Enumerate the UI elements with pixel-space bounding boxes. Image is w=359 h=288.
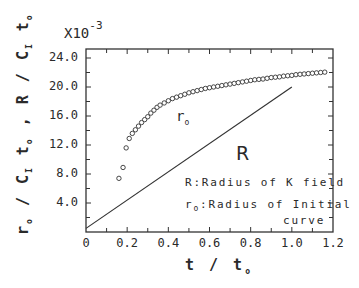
data-point-r0 xyxy=(162,101,166,105)
data-point-r0 xyxy=(220,83,224,87)
data-point-r0 xyxy=(203,86,207,90)
x-tick-label: 0.6 xyxy=(195,236,225,250)
x-tick-label: 0.2 xyxy=(112,236,142,250)
legend-entry-r0: ro:Radius of Initial xyxy=(185,198,352,213)
annotation-R: R xyxy=(236,142,249,164)
data-point-r0 xyxy=(158,103,162,107)
data-point-r0 xyxy=(224,83,228,87)
data-point-r0 xyxy=(244,79,248,83)
data-point-r0 xyxy=(211,85,215,89)
x-tick-label: 0.8 xyxy=(236,236,266,250)
y-axis-label: ro / CI to , R / CI to xyxy=(14,13,34,235)
y-tick-label: 8.0 xyxy=(34,166,78,180)
data-point-r0 xyxy=(166,99,170,103)
x-tick-label: 1.0 xyxy=(277,236,307,250)
data-point-r0 xyxy=(240,80,244,84)
data-point-r0 xyxy=(121,165,125,169)
data-point-r0 xyxy=(236,80,240,84)
data-point-r0 xyxy=(232,81,236,85)
y-tick-label: 4.0 xyxy=(34,195,78,209)
y-tick-label: 12.0 xyxy=(34,137,78,151)
data-point-r0 xyxy=(228,82,232,86)
y-tick-label: 16.0 xyxy=(34,108,78,122)
data-point-r0 xyxy=(248,78,252,82)
legend-entry-R: R:Radius of K field xyxy=(185,176,345,189)
data-point-r0 xyxy=(290,73,294,77)
annotation-r0: ro xyxy=(176,108,189,127)
data-point-r0 xyxy=(207,86,211,90)
x-axis-label: t / to xyxy=(185,256,253,276)
y-tick-label: 20.0 xyxy=(34,79,78,93)
data-point-r0 xyxy=(277,75,281,79)
data-point-r0 xyxy=(117,176,121,180)
data-point-r0 xyxy=(216,84,220,88)
x-origin-label: 0 xyxy=(71,236,101,250)
legend-entry-r0-continued: curve xyxy=(283,214,325,227)
data-point-r0 xyxy=(323,70,327,74)
x-tick-label: 0.4 xyxy=(153,236,183,250)
data-point-r0 xyxy=(265,76,269,80)
data-point-r0 xyxy=(261,77,265,81)
y-tick-label: 24.0 xyxy=(34,50,78,64)
data-point-r0 xyxy=(124,146,128,150)
y-multiplier: X10-3 xyxy=(64,22,103,41)
data-point-r0 xyxy=(127,136,131,140)
x-tick-label: 1.2 xyxy=(318,236,348,250)
